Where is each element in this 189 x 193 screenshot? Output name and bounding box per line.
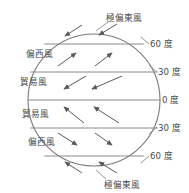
band-label-trade-winds-south: 貿易風 <box>22 108 49 119</box>
leader-line-n60 <box>141 37 149 44</box>
leader-line-polar-north <box>96 22 108 31</box>
band-labels: 極偏東風 偏西風 貿易風 貿易風 偏西風 極偏東風 <box>20 12 142 190</box>
band-label-polar-easterlies-north: 極偏東風 <box>106 12 142 23</box>
arrow-westerlies-north-1 <box>58 53 76 66</box>
degree-label-s60: 60 度 <box>150 150 173 161</box>
arrow-trade-winds-south-1 <box>64 107 84 123</box>
diagram-canvas: 極偏東風 偏西風 貿易風 貿易風 偏西風 極偏東風 60 度 30 度 0 度 … <box>0 0 189 193</box>
band-label-polar-easterlies-south: 極偏東風 <box>104 179 140 190</box>
arrow-trade-winds-north-2 <box>92 76 122 89</box>
wind-belt-diagram: 極偏東風 偏西風 貿易風 貿易風 偏西風 極偏東風 60 度 30 度 0 度 … <box>0 0 189 193</box>
arrow-trade-winds-south-2 <box>94 107 119 123</box>
leader-line-polar-south <box>96 170 106 179</box>
arrow-polar-easterlies-north-2 <box>99 24 117 35</box>
arrow-polar-easterlies-south-1 <box>65 162 82 173</box>
band-label-westerlies-north: 偏西風 <box>26 48 53 59</box>
arrow-westerlies-south-2 <box>95 133 112 145</box>
arrow-polar-easterlies-south-2 <box>99 162 117 173</box>
degree-label-n30: 30 度 <box>158 66 181 77</box>
degree-label-equator: 0 度 <box>162 94 179 105</box>
degree-label-s30: 30 度 <box>158 122 181 133</box>
arrow-polar-easterlies-north-1 <box>65 25 82 36</box>
band-label-trade-winds-north: 貿易風 <box>20 76 47 87</box>
band-label-westerlies-south: 偏西風 <box>28 136 55 147</box>
wind-arrows <box>58 24 122 173</box>
arrow-westerlies-north-2 <box>95 53 112 66</box>
degree-label-n60: 60 度 <box>150 38 173 49</box>
arrow-westerlies-south-1 <box>58 133 77 145</box>
leader-line-s60 <box>141 156 149 163</box>
arrow-trade-winds-north-1 <box>64 76 86 89</box>
